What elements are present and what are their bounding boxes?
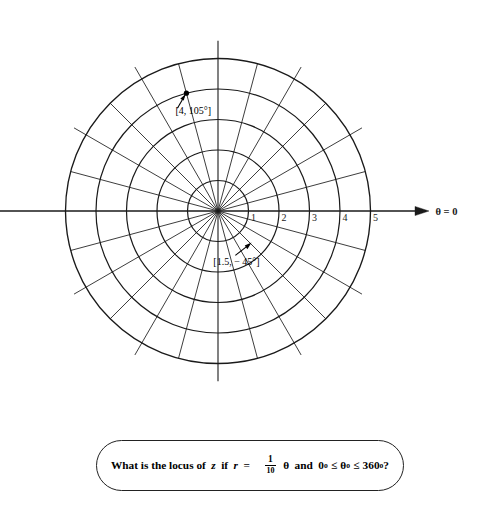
radial-tick-label-layer: 12345 xyxy=(251,212,378,223)
polar-spoke-225deg xyxy=(110,211,218,319)
fraction-numerator: 1 xyxy=(268,455,273,465)
caption-part-3: and xyxy=(295,459,313,471)
polar-spoke-120deg xyxy=(135,67,218,211)
question-caption-box: What is the locus ofzifr=110θand0o≤θo≤36… xyxy=(96,440,404,491)
radial-tick-label-4: 4 xyxy=(343,212,348,223)
caption-equals: = xyxy=(244,459,250,471)
polar-axis-layer: θ = 0 xyxy=(0,41,457,381)
radial-tick-label-3: 3 xyxy=(312,212,317,223)
polar-spoke-15deg xyxy=(218,172,365,211)
point-1p5-minus45-label: [1.5, − 45°] xyxy=(213,256,259,267)
polar-spoke-45deg xyxy=(218,103,326,211)
polar-grid-svg: θ = 0 12345 [4, 105°][1.5, − 45°] xyxy=(0,0,498,514)
caption-var-r: r xyxy=(234,459,238,471)
question-caption-text: What is the locus ofzifr=110θand0o≤θo≤36… xyxy=(111,456,389,476)
polar-spoke-210deg xyxy=(74,211,218,294)
polar-spoke-240deg xyxy=(135,211,218,355)
polar-spoke-150deg xyxy=(74,128,218,211)
polar-spoke-165deg xyxy=(71,172,218,211)
point-4-105-label: [4, 105°] xyxy=(175,105,211,116)
caption-360: 360 xyxy=(363,459,380,471)
caption-le-2: ≤ xyxy=(353,459,359,471)
polar-spoke-255deg xyxy=(179,211,218,358)
radial-tick-label-5: 5 xyxy=(373,212,378,223)
polar-spoke-75deg xyxy=(218,64,257,211)
point-1p5-minus45-arrowhead xyxy=(245,243,252,250)
fraction-denominator: 10 xyxy=(266,466,274,475)
radial-tick-label-2: 2 xyxy=(282,212,287,223)
polar-spoke-195deg xyxy=(71,211,218,250)
caption-part-1: What is the locus of xyxy=(111,459,206,471)
theta-zero-arrow xyxy=(415,206,429,215)
point-4-105-dot xyxy=(184,91,189,96)
polar-spoke-105deg xyxy=(179,64,218,211)
caption-le-1: ≤ xyxy=(331,459,337,471)
caption-fraction: 110 xyxy=(265,455,276,475)
polar-spoke-285deg xyxy=(218,211,257,358)
polar-spoke-30deg xyxy=(218,128,362,211)
caption-question-mark: ? xyxy=(383,459,389,471)
polar-spoke-60deg xyxy=(218,67,301,211)
polar-diagram-figure: θ = 0 12345 [4, 105°][1.5, − 45°] What i… xyxy=(0,0,498,514)
caption-part-2: if xyxy=(221,459,228,471)
caption-theta-1: θ xyxy=(283,459,289,471)
theta-zero-label: θ = 0 xyxy=(436,206,458,217)
caption-var-z: z xyxy=(211,459,215,471)
polar-spoke-135deg xyxy=(110,103,218,211)
radial-tick-label-1: 1 xyxy=(251,212,256,223)
polar-spoke-300deg xyxy=(218,211,301,355)
